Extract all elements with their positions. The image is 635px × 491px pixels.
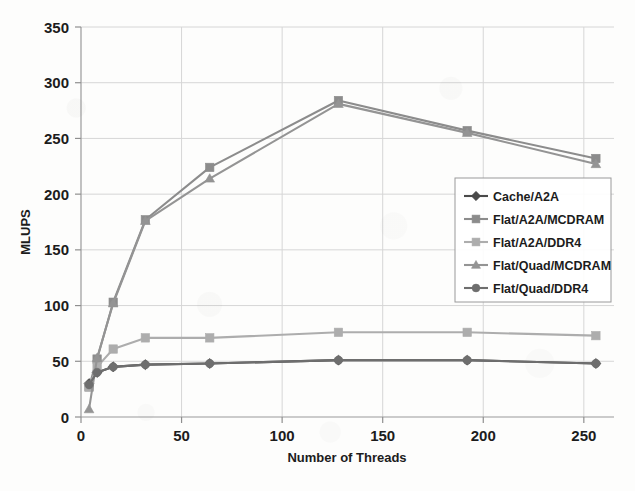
x-axis-tick-labels: 050100150200250: [77, 427, 597, 444]
y-tick-label-300: 300: [44, 74, 69, 91]
legend-label: Flat/Quad/MCDRAM: [493, 259, 611, 273]
line-chart: 050100150200250300350 050100150200250 Nu…: [0, 0, 635, 491]
data-marker: [205, 174, 215, 182]
data-marker: [206, 334, 214, 342]
legend-label: Flat/Quad/DDR4: [493, 282, 588, 296]
y-tick-label-100: 100: [44, 297, 69, 314]
data-marker: [334, 328, 342, 336]
legend-swatch-marker: [472, 284, 480, 292]
y-axis-title: MLUPS: [18, 209, 33, 255]
legend-swatch-marker: [472, 215, 480, 223]
x-tick-label-50: 50: [173, 427, 190, 444]
data-marker: [592, 359, 600, 367]
y-tick-label-0: 0: [61, 409, 69, 426]
data-marker: [109, 363, 117, 371]
chart-legend: Cache/A2AFlat/A2A/MCDRAMFlat/A2A/DDR4Fla…: [455, 178, 611, 302]
x-tick-label-200: 200: [471, 427, 496, 444]
y-axis-ticks: [75, 27, 81, 417]
x-tick-label-100: 100: [270, 427, 295, 444]
data-marker: [206, 163, 214, 171]
legend-label: Flat/A2A/DDR4: [493, 236, 581, 250]
data-marker: [141, 334, 149, 342]
data-marker: [592, 331, 600, 339]
data-marker: [141, 360, 149, 368]
data-marker: [334, 356, 342, 364]
x-tick-label-250: 250: [571, 427, 596, 444]
data-marker: [206, 359, 214, 367]
chart-container: 050100150200250300350 050100150200250 Nu…: [0, 0, 635, 491]
x-tick-label-150: 150: [370, 427, 395, 444]
y-tick-label-250: 250: [44, 130, 69, 147]
data-marker: [84, 404, 94, 412]
x-tick-label-0: 0: [77, 427, 85, 444]
data-marker: [463, 356, 471, 364]
legend-swatch-marker: [472, 238, 480, 246]
data-marker: [85, 380, 93, 388]
y-tick-label-150: 150: [44, 241, 69, 258]
data-marker: [93, 368, 101, 376]
legend-label: Cache/A2A: [493, 190, 559, 204]
series-line: [89, 360, 596, 385]
x-axis-title: Number of Threads: [287, 450, 406, 465]
y-tick-label-350: 350: [44, 19, 69, 36]
y-axis-tick-labels: 050100150200250300350: [44, 19, 69, 426]
data-marker: [463, 328, 471, 336]
y-tick-label-200: 200: [44, 186, 69, 203]
x-axis-ticks: [81, 417, 584, 423]
data-marker: [109, 345, 117, 353]
legend-label: Flat/A2A/MCDRAM: [493, 213, 604, 227]
y-tick-label-50: 50: [52, 353, 69, 370]
